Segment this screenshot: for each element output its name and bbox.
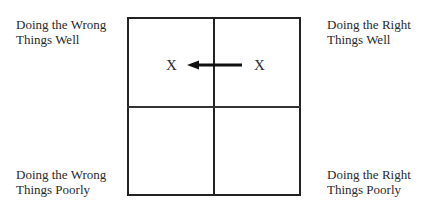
arrow-left-icon	[0, 0, 430, 213]
